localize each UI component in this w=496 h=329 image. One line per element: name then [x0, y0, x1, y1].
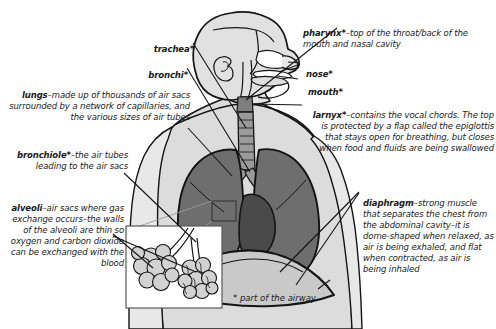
label-mouth-star: * [338, 87, 342, 97]
label-lungs: lungs–made up of thousands of air sacs s… [4, 79, 190, 123]
label-diaphragm-term: diaphragm [363, 198, 414, 208]
label-alveoli-term: alveoli [11, 203, 42, 213]
label-diaphragm-text: –strong muscle that separates the chest … [363, 198, 494, 274]
label-bronchi: bronchi* [60, 59, 188, 81]
label-larynx: larnyx*–contains the vocal chords. The t… [312, 99, 494, 154]
label-pharynx-term: pharynx [303, 28, 341, 38]
label-trachea-term: trachea [154, 44, 190, 54]
trachea-shape [238, 112, 255, 170]
label-pharynx: pharynx*–top of the throat/back of the m… [303, 17, 495, 50]
larynx-shape [237, 97, 253, 112]
footnote: * part of the airway [233, 293, 316, 303]
label-alveoli: alveoli–air sacs where gas exchange occu… [2, 192, 124, 269]
label-bronchiole: bronchiole*–the air tubes leading to the… [10, 139, 128, 172]
respiratory-diagram-page: trachea* bronchi* lungs–made up of thous… [0, 0, 496, 329]
label-larynx-text: –contains the vocal chords. The top is p… [319, 110, 494, 153]
label-trachea: trachea* [60, 33, 194, 55]
alveoli-inset [126, 226, 222, 308]
head-group [193, 12, 299, 101]
label-bronchiole-term: bronchiole [17, 150, 67, 160]
label-trachea-star: * [190, 44, 194, 54]
label-mouth-term: mouth [308, 87, 338, 97]
label-mouth: mouth* [308, 76, 388, 98]
label-lungs-term: lungs [22, 90, 48, 100]
label-diaphragm: diaphragm–strong muscle that separates t… [363, 187, 495, 275]
label-larynx-term: larnyx [313, 110, 342, 120]
